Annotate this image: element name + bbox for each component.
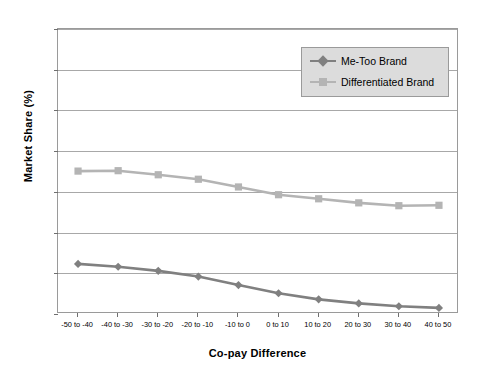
x-tick-labels: -50 to -40-40 to -30-30 to -20-20 to -10… [57,313,458,343]
data-point-marker [235,183,242,190]
data-point-marker [195,176,202,183]
chart-legend: Me-Too Brand Differentiated Brand [301,47,449,97]
x-tick-mark [117,313,118,317]
data-point-marker [74,167,81,174]
x-tick-label: 30 to 40 [384,320,411,329]
x-tick-label: -10 to 0 [225,320,250,329]
data-point-marker [74,260,82,268]
data-point-marker [234,281,242,289]
x-tick-label: 10 to 20 [304,320,331,329]
data-point-marker [315,195,322,202]
chart-container: Market Share (%) 010203040506070 -50 to … [0,0,488,372]
x-tick-label: -50 to -40 [61,320,93,329]
x-tick-label: -20 to -10 [182,320,214,329]
x-tick-label: -30 to -20 [141,320,173,329]
x-tick-mark [318,313,319,317]
data-point-marker [275,191,282,198]
x-tick-mark [157,313,158,317]
data-point-marker [154,267,162,275]
x-axis-title: Co-pay Difference [55,347,460,359]
x-tick-mark [197,313,198,317]
x-tick-label: 20 to 30 [344,320,371,329]
data-point-marker [395,202,402,209]
x-tick-mark [398,313,399,317]
x-tick-mark [358,313,359,317]
legend-key-me-too [310,55,336,67]
x-tick-mark [278,313,279,317]
y-axis-title: Market Share (%) [22,46,34,226]
x-tick-label: -40 to -30 [101,320,133,329]
x-tick-mark [77,313,78,317]
data-point-marker [274,289,282,297]
x-tick-label: 0 to 10 [266,320,289,329]
legend-label-differentiated: Differentiated Brand [341,76,434,88]
data-point-marker [315,295,323,303]
data-point-marker [114,263,122,271]
x-tick-label: 40 to 50 [425,320,452,329]
data-point-marker [115,167,122,174]
data-point-marker [355,299,363,307]
data-point-marker [194,272,202,280]
data-point-marker [355,199,362,206]
data-point-marker [435,202,442,209]
series-line-me-too [78,264,439,308]
data-point-marker [395,302,403,310]
legend-key-differentiated [310,76,336,88]
legend-label-me-too: Me-Too Brand [341,55,407,67]
data-point-marker [435,304,443,312]
x-tick-mark [438,313,439,317]
legend-item-differentiated: Differentiated Brand [310,74,434,90]
legend-item-me-too: Me-Too Brand [310,53,407,69]
x-tick-mark [237,313,238,317]
series-line-differentiated [78,171,439,206]
data-point-marker [155,171,162,178]
